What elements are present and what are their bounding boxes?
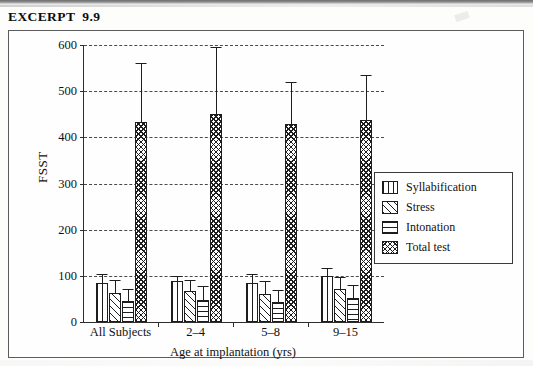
bar-total-test <box>135 122 147 322</box>
error-bar-cap <box>361 75 372 76</box>
error-bar-cap <box>123 289 134 290</box>
legend-label: Total test <box>406 240 450 255</box>
bar-syllabification <box>96 283 108 322</box>
error-bar-cap <box>335 277 346 278</box>
error-bar-cap <box>136 63 147 64</box>
y-gridline <box>84 91 384 92</box>
y-tick-label: 0 <box>71 315 77 330</box>
bar-stress <box>184 291 196 322</box>
error-bar-stem <box>291 82 292 124</box>
x-tick-mark <box>233 322 234 327</box>
bar-stress <box>259 294 271 322</box>
legend-item: Syllabification <box>382 179 505 196</box>
bar-syllabification <box>171 281 183 322</box>
legend-swatch-checkerboard <box>382 241 398 254</box>
x-tick-label-3: 9–15 <box>333 325 358 340</box>
error-bar-cap <box>348 285 359 286</box>
bar-intonation <box>347 298 359 322</box>
error-bar-stem <box>102 274 103 283</box>
legend-swatch-diagonal-hatch <box>382 201 398 214</box>
chart-plot-area: FSST 0100200300400500600 All Subjects2–4… <box>9 31 525 359</box>
bar-total-test <box>210 114 222 322</box>
y-axis-title: FSST <box>35 151 51 183</box>
error-bar-stem <box>353 285 354 298</box>
y-tick-mark <box>80 91 84 92</box>
page-title: EXCERPT9.9 <box>8 9 100 25</box>
y-tick-label: 100 <box>58 268 77 283</box>
error-bar-cap <box>198 286 209 287</box>
legend-item: Stress <box>382 199 505 216</box>
error-bar-stem <box>115 280 116 293</box>
excerpt-label: EXCERPT <box>8 9 75 24</box>
bar-intonation <box>197 300 209 322</box>
x-tick-mark <box>308 322 309 327</box>
error-bar-cap <box>97 274 108 275</box>
y-tick-mark <box>80 230 84 231</box>
legend-label: Intonation <box>406 220 455 235</box>
error-bar-stem <box>366 75 367 120</box>
legend-item: Intonation <box>382 219 505 236</box>
error-bar-stem <box>190 280 191 291</box>
error-bar-stem <box>278 290 279 302</box>
error-bar-stem <box>340 277 341 289</box>
error-bar-cap <box>322 268 333 269</box>
error-bar-stem <box>141 63 142 122</box>
error-bar-cap <box>211 47 222 48</box>
page-top-edge-shadow <box>0 5 533 7</box>
y-gridline <box>84 45 384 46</box>
y-tick-mark <box>80 45 84 46</box>
error-bar-cap <box>185 280 196 281</box>
error-bar-cap <box>273 290 284 291</box>
y-tick-mark <box>80 137 84 138</box>
error-bar-cap <box>110 280 121 281</box>
x-tick-mark <box>158 322 159 327</box>
page-bottom-shadow <box>0 360 533 366</box>
y-tick-label: 300 <box>58 176 77 191</box>
error-bar-stem <box>327 268 328 276</box>
legend-swatch-horizontal-lines <box>382 221 398 234</box>
error-bar-stem <box>216 47 217 114</box>
error-bar-cap <box>260 281 271 282</box>
bar-intonation <box>272 302 284 322</box>
scan-smudge <box>454 11 469 22</box>
y-tick-label: 200 <box>58 222 77 237</box>
error-bar-stem <box>128 289 129 301</box>
y-tick-label: 400 <box>58 130 77 145</box>
figure-frame: FSST 0100200300400500600 All Subjects2–4… <box>8 30 524 358</box>
y-tick-label: 600 <box>58 38 77 53</box>
error-bar-cap <box>247 274 258 275</box>
chart-legend: SyllabificationStressIntonationTotal tes… <box>374 172 513 264</box>
error-bar-cap <box>172 276 183 277</box>
bar-total-test <box>360 120 372 322</box>
x-tick-label-2: 5–8 <box>261 325 280 340</box>
bar-syllabification <box>246 283 258 322</box>
y-gridline <box>84 184 384 185</box>
error-bar-stem <box>252 274 253 283</box>
bar-stress <box>334 289 346 322</box>
x-tick-label-1: 2–4 <box>186 325 205 340</box>
error-bar-stem <box>203 286 204 300</box>
legend-swatch-vertical-lines <box>382 181 398 194</box>
bar-syllabification <box>321 276 333 322</box>
x-tick-label-0: All Subjects <box>90 325 151 340</box>
scanned-page: EXCERPT9.9 FSST 0100200300400500600 All … <box>0 0 533 366</box>
y-gridline <box>84 137 384 138</box>
bar-intonation <box>122 301 134 322</box>
error-bar-stem <box>265 281 266 294</box>
legend-item: Total test <box>382 239 505 256</box>
legend-label: Stress <box>406 200 435 215</box>
y-tick-mark <box>80 184 84 185</box>
bar-total-test <box>285 124 297 322</box>
y-tick-label: 500 <box>58 84 77 99</box>
excerpt-number: 9.9 <box>82 9 100 24</box>
y-gridline <box>84 230 384 231</box>
y-tick-mark <box>80 276 84 277</box>
error-bar-cap <box>286 82 297 83</box>
bar-stress <box>109 293 121 322</box>
x-axis-title: Age at implantation (yrs) <box>83 345 383 360</box>
legend-label: Syllabification <box>406 180 477 195</box>
y-tick-mark <box>80 322 84 323</box>
chart-axes: 0100200300400500600 <box>83 45 384 323</box>
